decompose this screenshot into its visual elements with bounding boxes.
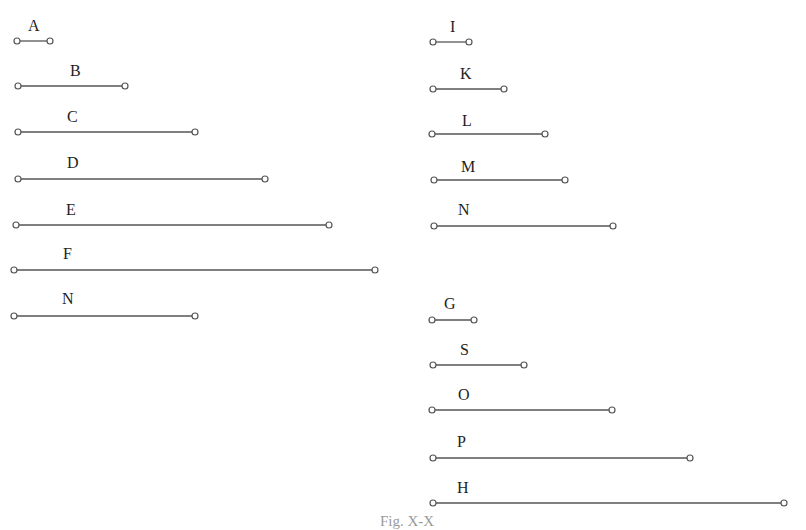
start-endpoint-circle-icon [430, 39, 436, 45]
segment-label: S [460, 342, 469, 358]
start-endpoint-circle-icon [15, 83, 21, 89]
segment-m-right [431, 177, 568, 183]
segment-label: H [457, 480, 469, 496]
end-endpoint-circle-icon [609, 407, 615, 413]
segment-o-right [429, 407, 615, 413]
segment-i-right [430, 39, 472, 45]
segment-label: E [66, 202, 76, 218]
segment-h-right [430, 500, 787, 506]
end-endpoint-circle-icon [542, 131, 548, 137]
end-endpoint-circle-icon [521, 362, 527, 368]
end-endpoint-circle-icon [471, 317, 477, 323]
end-endpoint-circle-icon [47, 38, 53, 44]
segment-p-right [430, 455, 693, 461]
segment-s-right [430, 362, 527, 368]
end-endpoint-circle-icon [610, 223, 616, 229]
segment-label: D [67, 155, 79, 171]
end-endpoint-circle-icon [192, 129, 198, 135]
end-endpoint-circle-icon [562, 177, 568, 183]
start-endpoint-circle-icon [11, 313, 17, 319]
segment-f-left [11, 267, 378, 273]
end-endpoint-circle-icon [122, 83, 128, 89]
segment-label: B [70, 63, 81, 79]
start-endpoint-circle-icon [11, 267, 17, 273]
segment-n-left [11, 313, 198, 319]
segment-l-right [429, 131, 548, 137]
end-endpoint-circle-icon [687, 455, 693, 461]
start-endpoint-circle-icon [15, 129, 21, 135]
start-endpoint-circle-icon [431, 223, 437, 229]
segment-b-left [15, 83, 128, 89]
segment-label: N [62, 291, 74, 307]
segment-g-right [429, 317, 477, 323]
segment-c-left [15, 129, 198, 135]
end-endpoint-circle-icon [781, 500, 787, 506]
end-endpoint-circle-icon [192, 313, 198, 319]
figure-caption: Fig. X-X [380, 513, 434, 530]
segment-d-left [15, 176, 268, 182]
segment-k-right [430, 86, 507, 92]
segment-label: O [458, 387, 470, 403]
start-endpoint-circle-icon [430, 500, 436, 506]
segment-label: P [457, 434, 466, 450]
start-endpoint-circle-icon [13, 222, 19, 228]
start-endpoint-circle-icon [15, 176, 21, 182]
segment-label: K [460, 66, 472, 82]
segment-label: G [444, 296, 456, 312]
end-endpoint-circle-icon [262, 176, 268, 182]
segment-n-right [431, 223, 616, 229]
start-endpoint-circle-icon [431, 177, 437, 183]
start-endpoint-circle-icon [429, 317, 435, 323]
end-endpoint-circle-icon [372, 267, 378, 273]
start-endpoint-circle-icon [429, 407, 435, 413]
end-endpoint-circle-icon [501, 86, 507, 92]
start-endpoint-circle-icon [430, 455, 436, 461]
segment-e-left [13, 222, 332, 228]
segment-label: A [28, 18, 40, 34]
segment-label: M [461, 159, 475, 175]
segment-label: N [458, 202, 470, 218]
end-endpoint-circle-icon [466, 39, 472, 45]
segment-a-left [14, 38, 53, 44]
start-endpoint-circle-icon [429, 131, 435, 137]
segment-label: C [67, 109, 78, 125]
segment-label: F [63, 246, 72, 262]
start-endpoint-circle-icon [14, 38, 20, 44]
start-endpoint-circle-icon [430, 362, 436, 368]
end-endpoint-circle-icon [326, 222, 332, 228]
start-endpoint-circle-icon [430, 86, 436, 92]
segment-label: I [450, 19, 455, 35]
segment-label: L [462, 113, 472, 129]
